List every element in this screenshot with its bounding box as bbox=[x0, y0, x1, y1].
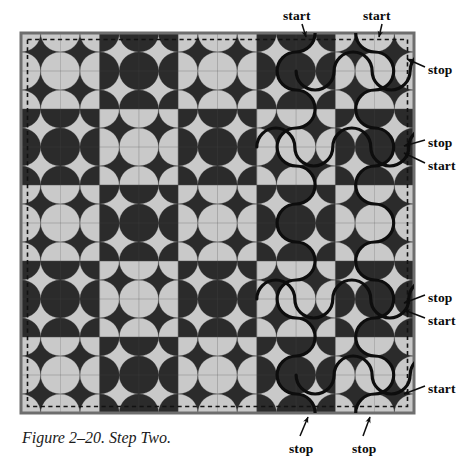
annotation-stop-right-1: stop bbox=[428, 62, 452, 78]
annotation-stop-bottom-1: stop bbox=[289, 441, 313, 457]
annotation-start-right-1: start bbox=[428, 158, 456, 174]
figure-root: startstartstopstopstartstopstartstartsto… bbox=[0, 0, 472, 469]
annotation-start-right-3: start bbox=[428, 381, 456, 397]
annotation-stop-right-3: stop bbox=[428, 290, 452, 306]
figure-caption: Figure 2–20. Step Two. bbox=[22, 429, 171, 447]
annotation-start-top-1: start bbox=[283, 8, 311, 24]
annotation-stop-right-2: stop bbox=[428, 135, 452, 151]
annotation-stop-bottom-2: stop bbox=[352, 441, 376, 457]
orange-peel-quilt-figure bbox=[0, 0, 472, 469]
leader-stop-bottom-2 bbox=[363, 417, 370, 436]
annotation-start-top-2: start bbox=[363, 8, 391, 24]
leader-stop-bottom-1 bbox=[300, 417, 308, 436]
annotation-start-right-2: start bbox=[428, 313, 456, 329]
